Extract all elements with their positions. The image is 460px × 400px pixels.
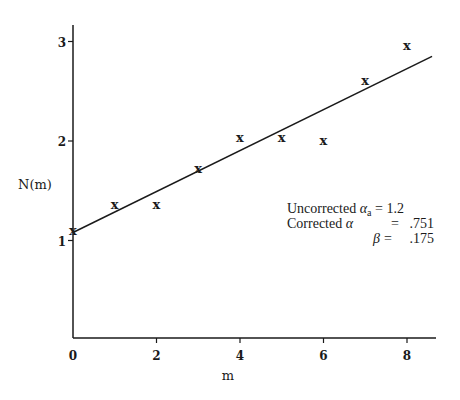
data-point-marker: x: [320, 133, 328, 148]
y-tick-label: 3: [58, 36, 66, 50]
data-point-marker: x: [69, 223, 77, 238]
data-point-marker: x: [111, 197, 119, 212]
data-point-marker: x: [278, 130, 286, 145]
x-ticks: 02468: [69, 338, 411, 363]
chart-canvas: 123 02468 xxxxxxxxx N(m) m Uncorrected α…: [0, 0, 460, 400]
x-tick-label: 8: [403, 349, 411, 363]
y-ticks: 123: [58, 36, 73, 249]
data-point-marker: x: [194, 161, 202, 176]
data-point-marker: x: [361, 73, 369, 88]
x-tick-label: 0: [69, 349, 77, 363]
x-tick-label: 6: [319, 349, 327, 363]
y-tick-label: 1: [58, 235, 66, 249]
x-axis-label: m: [222, 368, 234, 383]
legend-corrected-alpha-value: .751: [410, 216, 435, 231]
data-point-marker: x: [236, 130, 244, 145]
legend-beta-eq: =: [384, 231, 392, 246]
fit-parameters-legend: Uncorrected αa = 1.2 Corrected α = .751 …: [287, 201, 434, 246]
data-point-marker: x: [153, 197, 161, 212]
legend-beta-symbol: β: [372, 231, 380, 246]
x-tick-label: 2: [152, 349, 160, 363]
y-axis-label: N(m): [18, 177, 52, 192]
data-point-marker: x: [403, 38, 411, 53]
y-tick-label: 2: [58, 135, 66, 149]
legend-corrected-alpha-eq: =: [391, 216, 399, 231]
x-tick-label: 4: [236, 349, 244, 363]
legend-corrected-alpha-label: Corrected α: [287, 216, 354, 231]
legend-beta-value: .175: [410, 231, 435, 246]
